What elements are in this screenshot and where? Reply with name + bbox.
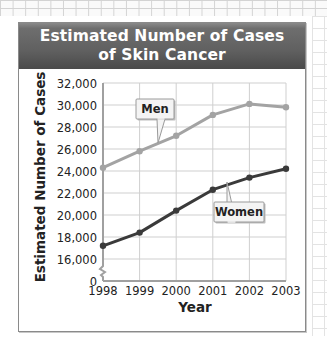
x-tick-label: 1998 (88, 284, 117, 298)
data-point (246, 101, 252, 107)
y-tick-label: 30,000 (57, 99, 97, 113)
series-callouts: MenWomen (136, 99, 266, 224)
x-tick-label: 2001 (198, 284, 227, 298)
y-tick-labels: 32,00030,00028,00026,00024,00022,00020,0… (57, 77, 97, 289)
x-axis-label: Year (177, 299, 212, 315)
data-point (283, 104, 289, 110)
y-tick-label: 20,000 (57, 209, 97, 223)
y-tick-label: 18,000 (57, 231, 97, 245)
data-point (246, 174, 252, 180)
data-point (100, 243, 106, 249)
x-tick-label: 2002 (235, 284, 264, 298)
y-tick-label: 24,000 (57, 165, 97, 179)
plot-axes (100, 83, 286, 281)
data-point (173, 133, 179, 139)
data-point (100, 165, 106, 171)
men-callout-label: Men (141, 102, 168, 116)
x-tick-labels: 199819992000200120022003 (88, 284, 300, 298)
x-tick-label: 2003 (271, 284, 300, 298)
x-tick-label: 2000 (162, 284, 191, 298)
line-chart: 32,00030,00028,00026,00024,00022,00020,0… (0, 0, 327, 352)
data-point (283, 166, 289, 172)
y-tick-label: 26,000 (57, 143, 97, 157)
plot-grid (103, 83, 286, 281)
men-callout: Men (136, 99, 176, 143)
data-series (100, 101, 289, 249)
data-point (210, 112, 216, 118)
series-line-men (103, 104, 286, 168)
y-tick-label: 22,000 (57, 187, 97, 201)
data-point (173, 207, 179, 213)
y-axis-line-with-break (100, 83, 105, 281)
y-axis-label: Estimated Number of Cases (32, 72, 48, 283)
data-point (136, 148, 142, 154)
data-point (136, 229, 142, 235)
y-tick-label: 28,000 (57, 121, 97, 135)
women-callout-label: Women (215, 205, 263, 219)
y-tick-label: 16,000 (57, 253, 97, 267)
data-point (210, 187, 216, 193)
x-tick-label: 1999 (125, 284, 154, 298)
y-tick-label: 32,000 (57, 77, 97, 91)
